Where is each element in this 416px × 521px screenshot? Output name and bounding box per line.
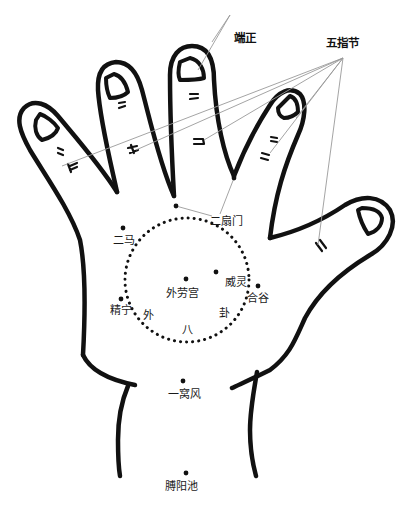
index-finger-outline xyxy=(234,90,304,238)
wrist-right xyxy=(250,372,257,476)
label-duanzheng: 端正 xyxy=(234,33,256,45)
label-ershanmen: 二扇门 xyxy=(210,216,243,227)
hegu-dot xyxy=(256,284,261,289)
label-circle-gua: 卦 xyxy=(219,308,230,319)
wrist-left xyxy=(118,386,128,476)
boyangchi-dot xyxy=(184,471,189,476)
erma-dot xyxy=(121,226,126,231)
label-circle-wai: 外 xyxy=(143,310,154,321)
weiling-dot xyxy=(214,270,219,275)
little-finger-nail xyxy=(35,114,58,140)
label-circle-ba: 八 xyxy=(182,325,193,336)
ershanmen-dot-1 xyxy=(174,204,179,209)
thumb-nail xyxy=(358,208,382,234)
ershanmen-dot-2 xyxy=(232,176,237,181)
hand-diagram xyxy=(0,0,416,521)
label-hegu: 合谷 xyxy=(247,293,269,304)
label-yiwofeng: 一窝风 xyxy=(168,389,201,400)
label-weiling: 威灵 xyxy=(225,277,247,288)
index-finger-nail xyxy=(278,96,298,118)
ring-finger-outline xyxy=(98,62,174,196)
label-erma: 二马 xyxy=(113,235,135,246)
fingernails xyxy=(35,58,382,234)
yiwofeng-dot xyxy=(181,379,186,384)
label-wailaogong: 外劳宫 xyxy=(166,288,199,299)
little-finger-outline xyxy=(19,103,117,355)
label-boyangchi: 膊阳池 xyxy=(165,481,198,492)
middle-finger-nail xyxy=(179,58,205,80)
jingning-dot xyxy=(119,297,124,302)
label-jingning: 精宁 xyxy=(110,305,132,316)
wailaogong-dot xyxy=(184,277,189,282)
palm-left-lower xyxy=(83,355,135,385)
ring-finger-nail xyxy=(106,74,128,98)
label-wuzhijie: 五指节 xyxy=(326,38,359,50)
